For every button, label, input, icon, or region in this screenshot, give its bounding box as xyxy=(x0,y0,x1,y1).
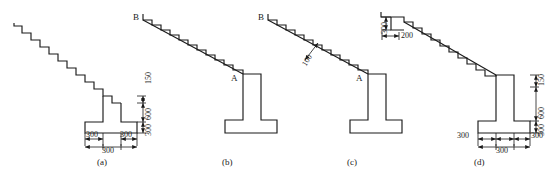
panel-caption-b: (b) xyxy=(222,157,233,167)
dimension-label-a-300-left: 300 xyxy=(86,130,98,139)
dimension-label-d-tread-200: 200 xyxy=(401,31,413,40)
point-label-b-upper: B xyxy=(133,12,139,22)
dimension-label-d-300-center: 300 xyxy=(496,146,508,155)
dimension-label-d-150: 150 xyxy=(537,74,546,86)
dimension-label-d-300-left: 300 xyxy=(457,131,469,140)
dimension-label-a-300-right: 300 xyxy=(120,130,132,139)
dimension-label-d-600: 600 xyxy=(537,107,546,119)
panel-caption-c: (c) xyxy=(347,157,357,167)
point-label-b-lower: A xyxy=(231,73,238,83)
dimension-label-d-300-right: 300 xyxy=(531,131,543,140)
point-label-c-upper: B xyxy=(258,12,264,22)
panel-a-geometry xyxy=(14,23,137,133)
dimension-label-a-300-bottom: 300 xyxy=(102,146,114,155)
dimension-label-a-600: 600 xyxy=(144,108,153,120)
figure-sheet: 150 600 300 300 300 300 B A B A 100 300 … xyxy=(0,0,551,179)
dimension-label-d-riser-300: 300 xyxy=(380,22,389,34)
panel-caption-a: (a) xyxy=(97,157,107,167)
dimension-label-a-150: 150 xyxy=(144,72,153,84)
drawing-canvas xyxy=(0,0,551,179)
point-label-c-lower: A xyxy=(356,73,363,83)
panel-b-geometry xyxy=(143,14,277,133)
dimension-label-a-300-vertical: 300 xyxy=(144,124,153,136)
panel-caption-d: (d) xyxy=(474,157,485,167)
